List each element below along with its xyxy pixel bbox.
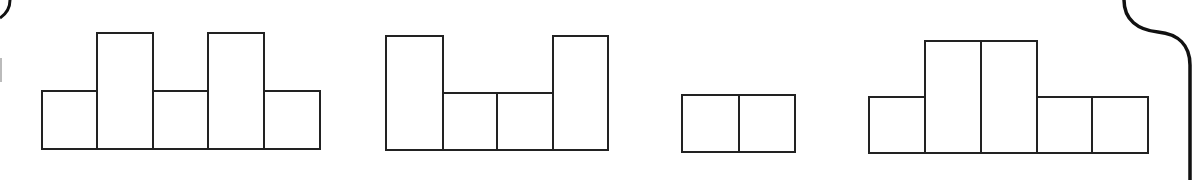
unit-square xyxy=(497,93,553,150)
shapes-diagram xyxy=(0,0,1200,180)
unit-square xyxy=(443,93,497,150)
unit-square xyxy=(1037,97,1092,153)
unit-square xyxy=(264,91,320,149)
unit-square xyxy=(153,91,208,149)
tall-rectangle xyxy=(208,33,264,149)
figures-group xyxy=(42,33,1148,153)
figure-4 xyxy=(869,41,1148,153)
unit-square xyxy=(869,97,925,153)
tall-rectangle xyxy=(925,41,981,153)
unit-square xyxy=(682,95,739,152)
tall-rectangle xyxy=(981,41,1037,153)
unit-square xyxy=(1092,97,1148,153)
tall-rectangle xyxy=(97,33,153,149)
figure-1 xyxy=(42,33,320,149)
figure-2 xyxy=(386,36,608,150)
tall-rectangle xyxy=(553,36,608,150)
tall-rectangle xyxy=(386,36,443,150)
left-brace-curve xyxy=(0,0,10,18)
unit-square xyxy=(42,91,97,149)
unit-square xyxy=(739,95,795,152)
figure-3 xyxy=(682,95,795,152)
